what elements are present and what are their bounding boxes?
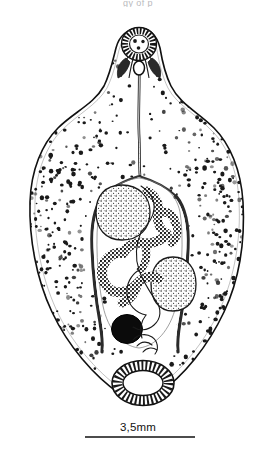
- ventral-sucker-group: [112, 361, 174, 406]
- pharynx: [134, 61, 145, 75]
- scale-bar-label: 3,5mm: [0, 421, 276, 433]
- oral-sucker-inner-ring: [130, 35, 149, 53]
- ventral-sucker-aperture: [123, 371, 163, 396]
- oral-sucker-group: [117, 28, 160, 79]
- figure-root: gy of p: [0, 0, 276, 455]
- top-clipped-caption: gy of p: [0, 0, 276, 7]
- trematode-drawing: [0, 0, 276, 455]
